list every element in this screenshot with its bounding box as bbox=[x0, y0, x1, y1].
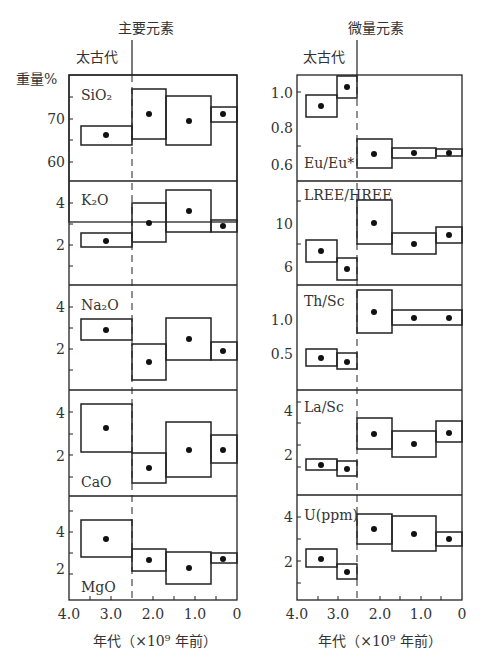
right-panel-label: U(ppm) bbox=[304, 507, 358, 523]
right-panel-label: Eu/Eu* bbox=[304, 155, 354, 171]
y-tick: 4 bbox=[284, 509, 293, 525]
left-panel-label: CaO bbox=[81, 474, 112, 490]
y-tick: 4 bbox=[284, 403, 293, 419]
y-tick: 2 bbox=[56, 237, 65, 253]
x-tick: 2.0 bbox=[142, 606, 164, 622]
y-tick: 4 bbox=[56, 524, 65, 540]
y-tick: 0.5 bbox=[271, 346, 293, 362]
x-tick: 4.0 bbox=[58, 606, 80, 622]
y-tick: 1.0 bbox=[271, 312, 293, 328]
left-chart bbox=[69, 75, 237, 600]
right-xlabel: 年代（×10⁹ 年前） bbox=[318, 633, 442, 649]
y-tick: 0.8 bbox=[271, 120, 293, 136]
right-panel-label: Th/Sc bbox=[304, 293, 345, 309]
y-tick: 2 bbox=[284, 554, 293, 570]
y-tick: 4 bbox=[56, 195, 65, 211]
right-title: 微量元素 bbox=[348, 20, 404, 36]
right-panel-label: LREE/HREE bbox=[304, 187, 392, 203]
figure: 主要元素 太古代 重量% bbox=[0, 0, 486, 669]
y-tick: 1.0 bbox=[271, 85, 293, 101]
left-title: 主要元素 bbox=[118, 20, 174, 36]
y-tick: 60 bbox=[47, 154, 65, 170]
x-tick: 0 bbox=[233, 606, 242, 622]
left-panel-label: SiO₂ bbox=[81, 87, 112, 103]
left-means bbox=[103, 111, 226, 571]
right-panel-label: La/Sc bbox=[304, 399, 344, 415]
left-panel-label: K₂O bbox=[81, 192, 109, 208]
y-tick: 2 bbox=[56, 561, 65, 577]
y-tick: 10 bbox=[275, 216, 293, 232]
y-tick: 6 bbox=[284, 259, 293, 275]
x-tick: 4.0 bbox=[286, 606, 308, 622]
left-xlabel: 年代（×10⁹ 年前） bbox=[93, 633, 217, 649]
y-tick: 70 bbox=[47, 111, 65, 127]
y-tick: 2 bbox=[56, 341, 65, 357]
y-tick: 4 bbox=[56, 299, 65, 315]
y-tick: 4 bbox=[56, 405, 65, 421]
right-era-label: 太古代 bbox=[303, 49, 345, 65]
x-tick: 3.0 bbox=[100, 606, 122, 622]
x-tick: 3.0 bbox=[327, 606, 349, 622]
y-tick: 0.6 bbox=[271, 157, 293, 173]
left-era-label: 太古代 bbox=[76, 49, 118, 65]
left-panel-label: Na₂O bbox=[81, 297, 119, 313]
x-tick: 0 bbox=[458, 606, 467, 622]
x-tick: 1.0 bbox=[184, 606, 206, 622]
x-tick: 1.0 bbox=[410, 606, 432, 622]
x-tick: 2.0 bbox=[369, 606, 391, 622]
y-tick: 2 bbox=[284, 447, 293, 463]
left-panel-label: MgO bbox=[81, 579, 116, 595]
left-ylabel: 重量% bbox=[16, 71, 57, 87]
y-tick: 2 bbox=[56, 448, 65, 464]
